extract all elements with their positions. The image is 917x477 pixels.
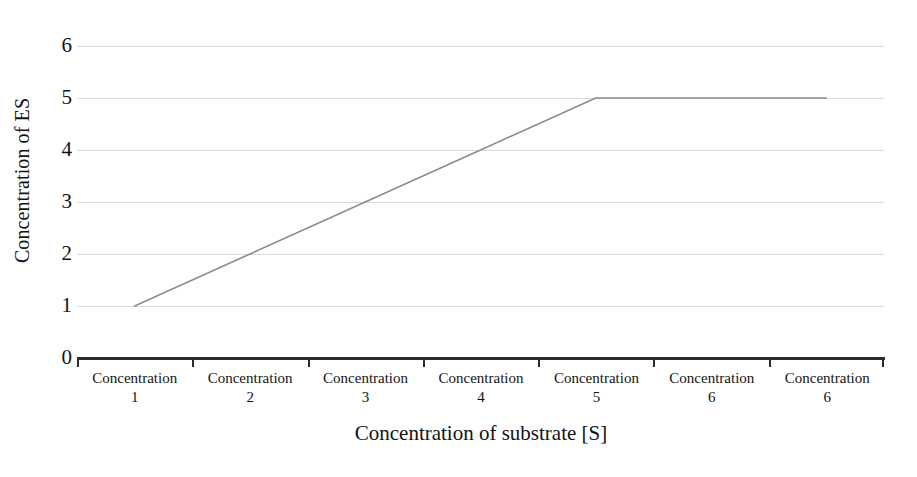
y-axis-tick-label: 0 [44, 347, 72, 368]
y-axis-tick-label: 6 [44, 35, 72, 56]
x-axis-tick-label: Concentration6 [770, 369, 885, 417]
x-axis-tick-label-name: Concentration [423, 369, 538, 388]
x-axis-tick [77, 358, 79, 367]
x-axis-tick-label-name: Concentration [654, 369, 769, 388]
x-axis-tick-label: Concentration5 [539, 369, 654, 417]
x-axis-tick [192, 358, 194, 367]
x-axis-tick-label: Concentration1 [77, 369, 192, 417]
series-line-concentration-of-es [135, 98, 827, 306]
plot-area [77, 46, 884, 358]
x-axis-tick [653, 358, 655, 367]
x-axis-tick-label-number: 6 [770, 388, 885, 407]
x-axis-tick-label: Concentration2 [192, 369, 307, 417]
x-axis-tick-label-name: Concentration [77, 369, 192, 388]
x-axis-tick-labels: Concentration1Concentration2Concentratio… [77, 369, 885, 417]
x-axis-tick-label-number: 3 [308, 388, 423, 407]
x-axis-tick [538, 358, 540, 367]
y-axis-title: Concentration of ES [0, 0, 46, 360]
y-axis-tick-label: 4 [44, 139, 72, 160]
y-axis-tick-label: 2 [44, 243, 72, 264]
x-axis-tick-label: Concentration3 [308, 369, 423, 417]
y-axis-tick-labels: 0123456 [42, 0, 72, 400]
x-axis-tick-label-number: 5 [539, 388, 654, 407]
y-axis-tick-label: 3 [44, 191, 72, 212]
x-axis-tick-label-number: 2 [192, 388, 307, 407]
x-axis-tick [882, 358, 884, 367]
series-layer [77, 46, 884, 358]
x-axis-tick [423, 358, 425, 367]
x-axis-title: Concentration of substrate [S] [77, 421, 885, 446]
x-axis-tick-label-name: Concentration [539, 369, 654, 388]
x-axis-tick-label-name: Concentration [308, 369, 423, 388]
x-axis-tick-label-name: Concentration [192, 369, 307, 388]
x-axis-tick-label-number: 6 [654, 388, 769, 407]
line-chart: Concentration of ES 0123456 Concentratio… [0, 0, 917, 477]
y-axis-tick-label: 1 [44, 295, 72, 316]
x-axis-tick [769, 358, 771, 367]
y-axis-title-text: Concentration of ES [12, 97, 35, 262]
x-axis-tick-label-number: 4 [423, 388, 538, 407]
x-axis-tick-label: Concentration6 [654, 369, 769, 417]
x-axis-tick-label-number: 1 [77, 388, 192, 407]
x-axis-tick-label-name: Concentration [770, 369, 885, 388]
x-axis-tick [308, 358, 310, 367]
x-axis-line [77, 357, 885, 360]
x-axis-tick-label: Concentration4 [423, 369, 538, 417]
y-axis-tick-label: 5 [44, 87, 72, 108]
